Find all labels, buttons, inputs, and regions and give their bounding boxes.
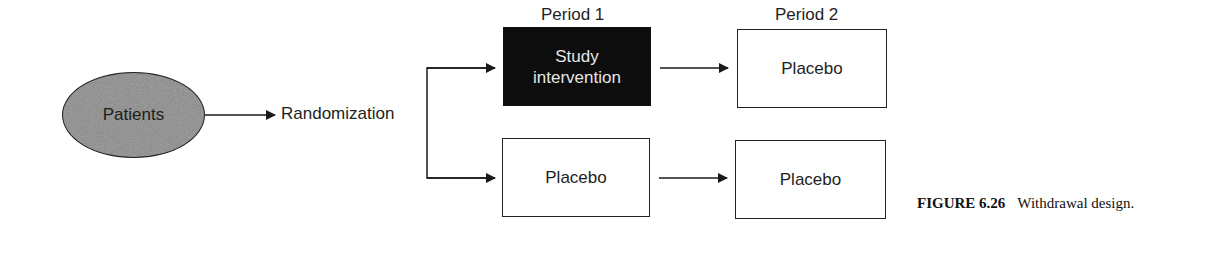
arm1-period1-study-intervention-box: Study intervention [503, 27, 651, 106]
arm2-period1-placebo-box: Placebo [502, 138, 650, 217]
figure-number: FIGURE 6.26 [917, 195, 1005, 211]
period-2-header: Period 2 [775, 5, 838, 25]
patients-node: Patients [62, 72, 205, 158]
randomization-label: Randomization [281, 104, 394, 124]
arm1-period2-placebo-box: Placebo [737, 29, 887, 108]
period-1-header: Period 1 [541, 5, 604, 25]
figure-caption: FIGURE 6.26Withdrawal design. [917, 195, 1134, 212]
arm2-period1-label: Placebo [545, 167, 606, 188]
arm1-period2-label: Placebo [781, 58, 842, 79]
patients-label: Patients [103, 105, 164, 125]
study-intervention-line-1: Study [533, 46, 621, 67]
arm2-period2-label: Placebo [780, 169, 841, 190]
arm2-period2-placebo-box: Placebo [735, 140, 886, 219]
study-intervention-line-2: intervention [533, 67, 621, 88]
figure-title: Withdrawal design. [1017, 195, 1134, 211]
